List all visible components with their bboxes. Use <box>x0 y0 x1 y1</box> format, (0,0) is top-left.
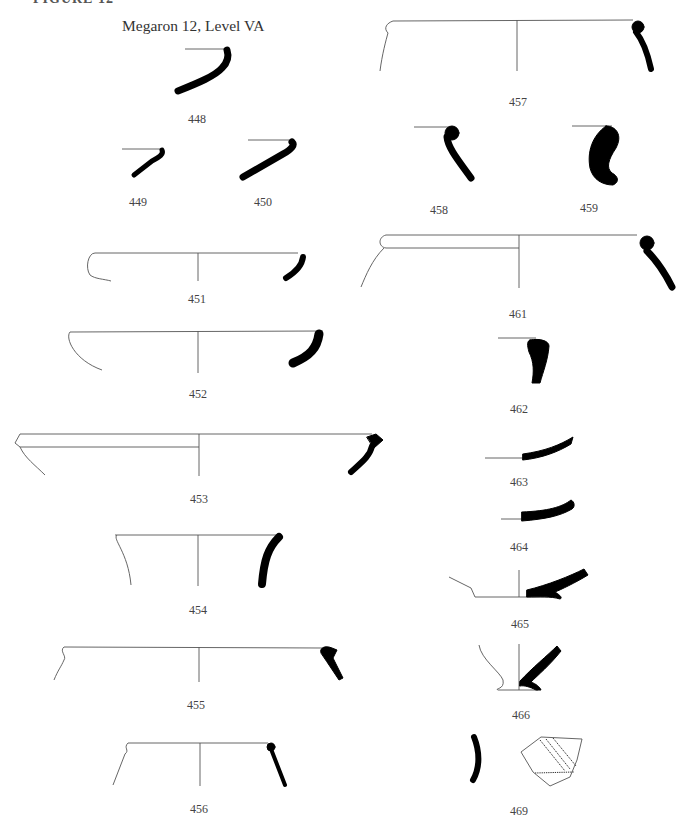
profile-469 <box>473 737 582 786</box>
figure-label-454: 454 <box>189 603 207 618</box>
figure-label-463: 463 <box>510 475 528 490</box>
profile-466 <box>479 644 561 690</box>
profile-449 <box>122 149 163 175</box>
figure-label-449: 449 <box>129 195 147 210</box>
figure-label-466: 466 <box>512 708 530 723</box>
figure-label-448: 448 <box>188 112 206 127</box>
pottery-profile-drawings <box>0 0 684 829</box>
figure-label-450: 450 <box>254 195 272 210</box>
figure-label-455: 455 <box>187 698 205 713</box>
figure-label-456: 456 <box>190 802 208 817</box>
figure-label-461: 461 <box>509 307 527 322</box>
profile-453 <box>15 434 383 476</box>
inscription-glyphs <box>535 738 576 773</box>
figure-label-465: 465 <box>511 617 529 632</box>
profile-459 <box>572 126 619 185</box>
profile-461 <box>361 235 672 288</box>
figure-label-464: 464 <box>510 540 528 555</box>
profile-458 <box>414 126 471 178</box>
profile-457 <box>380 20 651 71</box>
profile-463 <box>485 437 573 460</box>
profile-451 <box>88 253 303 281</box>
figure-label-458: 458 <box>430 203 448 218</box>
profile-452 <box>69 331 323 373</box>
profile-450 <box>243 140 293 177</box>
figure-label-462: 462 <box>510 402 528 417</box>
figure-label-459: 459 <box>580 201 598 216</box>
figure-label-452: 452 <box>189 387 207 402</box>
profile-454 <box>115 535 279 586</box>
figure-label-451: 451 <box>188 292 206 307</box>
figure-label-453: 453 <box>190 492 208 507</box>
profile-448 <box>178 49 228 91</box>
profile-464 <box>501 500 574 521</box>
figure-label-469: 469 <box>510 804 528 819</box>
profile-455 <box>54 647 343 682</box>
profile-456 <box>113 743 285 786</box>
figure-label-457: 457 <box>509 95 527 110</box>
profile-462 <box>498 338 549 383</box>
profile-465 <box>449 569 588 599</box>
